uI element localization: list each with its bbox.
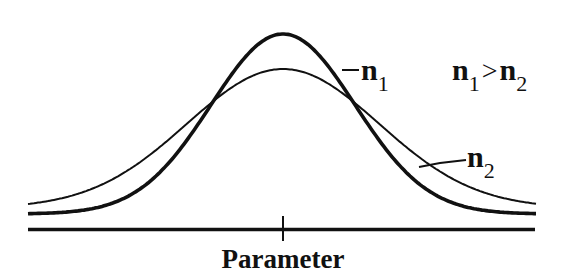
n2-label: n2	[467, 140, 495, 183]
cmp-a-sub: 1	[469, 71, 480, 96]
cmp-b-main: n	[499, 53, 516, 86]
n1-label: n1	[361, 53, 389, 96]
cmp-b-sub: 2	[516, 71, 527, 96]
cmp-operator: >	[482, 55, 498, 86]
n2-label-main: n	[467, 140, 484, 173]
x-axis-label: Parameter	[222, 244, 345, 274]
n1-label-sub: 1	[378, 71, 389, 96]
comparison-annotation: n1>n2	[452, 53, 527, 96]
cmp-a-main: n	[452, 53, 469, 86]
curve-n2	[28, 69, 536, 204]
sampling-distribution-chart: n1 n1>n2 n2 Parameter	[0, 0, 565, 277]
n1-label-main: n	[361, 53, 378, 86]
n2-label-sub: 2	[484, 158, 495, 183]
